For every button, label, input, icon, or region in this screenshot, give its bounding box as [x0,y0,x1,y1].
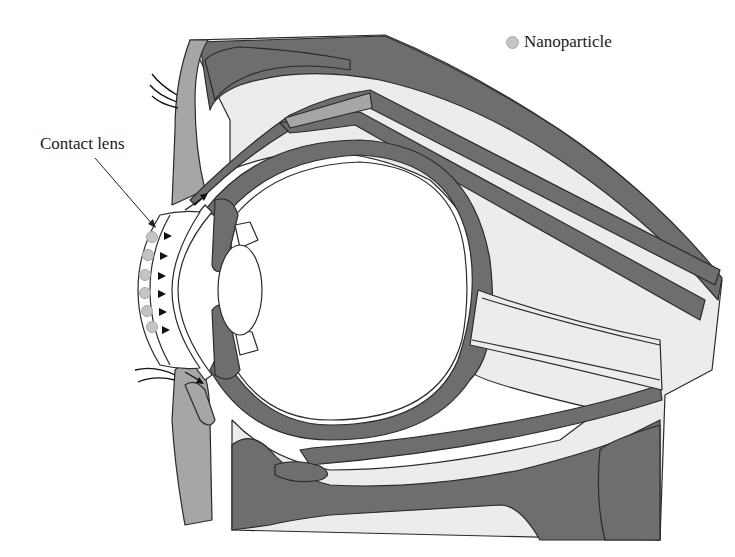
legend-label: Nanoparticle [524,32,612,52]
eye-cross-section-svg [0,0,735,557]
crystalline-lens [218,245,262,335]
nanoparticle [140,288,151,299]
nanoparticle [147,232,158,243]
nanoparticle [143,250,154,261]
nanoparticle [147,322,158,333]
eyelash-upper [152,96,178,108]
eyelash-upper [152,74,177,95]
eyelash-lower [138,378,175,382]
nanoparticle-legend-icon [506,36,519,49]
vitreous-body [228,162,467,420]
eye-diagram: Nanoparticle Contact lens [0,0,735,557]
nanoparticle [142,306,153,317]
eyelash-upper [150,85,177,102]
contact-lens-pointer-line [95,158,153,225]
eyelash-lower [135,368,175,375]
nanoparticle [140,270,151,281]
contact-lens-label: Contact lens [40,134,125,154]
legend-nanoparticle: Nanoparticle [506,32,612,52]
